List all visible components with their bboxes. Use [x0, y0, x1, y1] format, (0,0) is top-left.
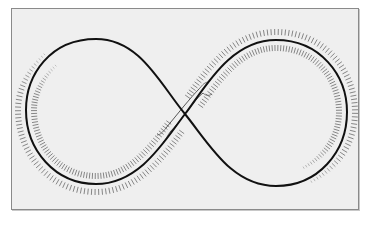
hatch-tick: [334, 129, 340, 131]
hatch-tick: [335, 101, 341, 102]
hatch-tick: [72, 169, 74, 175]
hatch-tick: [203, 71, 208, 75]
hatch-tick: [15, 117, 21, 118]
hatch-tick: [199, 77, 204, 81]
hatch-tick: [320, 152, 323, 155]
hatch-tick: [327, 168, 330, 171]
hatch-tick: [43, 78, 46, 80]
hatch-tick: [202, 99, 207, 102]
hatch-tick: [232, 63, 236, 68]
hatch-tick: [331, 136, 336, 139]
hatch-tick: [308, 163, 310, 166]
hatch-tick: [213, 84, 218, 88]
hatch-tick: [330, 166, 333, 169]
hatch-tick: [108, 172, 109, 178]
hatch-tick: [216, 56, 220, 60]
hatch-tick: [249, 51, 252, 56]
hatch-tick: [64, 165, 67, 170]
hatch-tick: [327, 76, 332, 79]
hatch-tick: [223, 72, 227, 76]
hatch-tick: [128, 181, 131, 186]
hatch-tick: [314, 40, 317, 45]
hatch-tick: [209, 89, 214, 93]
hatch-tick: [89, 173, 90, 179]
hatch-tick: [342, 149, 347, 152]
hatch-tick: [56, 179, 59, 184]
hatch-tick: [24, 78, 28, 80]
hatch-tick: [224, 49, 228, 54]
hatch-tick: [236, 41, 239, 46]
hatch-tick: [335, 121, 341, 122]
hatch-tick: [332, 87, 338, 89]
hatch-tick: [326, 74, 331, 77]
hatch-tick: [43, 147, 48, 150]
hatch-tick: [103, 173, 104, 179]
hatch-tick: [325, 48, 329, 53]
hatch-tick: [114, 170, 116, 176]
hatch-tick: [33, 124, 39, 125]
hatch-tick: [242, 37, 245, 42]
hatch-tick: [41, 145, 46, 148]
hatch-tick: [55, 65, 56, 66]
hatch-tick: [16, 121, 22, 122]
hatch-tick: [334, 161, 338, 164]
hatch-tick: [57, 161, 61, 166]
hatch-tick: [249, 34, 251, 40]
hatch-tick: [330, 81, 335, 84]
hatch-tick: [121, 167, 124, 172]
hatch-tick: [351, 127, 357, 128]
hatch-tick: [50, 155, 54, 159]
hatch-tick: [286, 46, 287, 52]
hatch-tick: [137, 176, 140, 181]
hatch-tick: [44, 171, 48, 176]
hatch-tick: [309, 55, 312, 60]
hatch-tick: [155, 161, 159, 165]
hatch-tick: [204, 96, 209, 99]
hatch-tick: [22, 81, 27, 83]
hatch-tick: [221, 74, 225, 78]
hatch-tick: [304, 52, 307, 57]
hatch-tick: [29, 156, 34, 159]
hatch-tick: [351, 124, 357, 125]
hatch-tick: [18, 92, 24, 94]
hatch-tick: [332, 163, 335, 166]
hatch-tick: [26, 150, 31, 153]
hatch-tick: [70, 185, 72, 191]
hatch-tick: [37, 137, 43, 139]
hatch-tick: [145, 170, 149, 175]
hatch-tick: [143, 149, 147, 153]
hatch-tick: [214, 59, 218, 63]
hatch-tick: [314, 179, 315, 181]
hatch-tick: [31, 116, 37, 117]
hatch-tick: [84, 188, 85, 194]
hatch-tick: [150, 165, 154, 169]
hatch-tick: [35, 91, 40, 93]
hatch-tick: [152, 163, 156, 167]
hatch-tick: [263, 46, 264, 52]
hatch-tick: [345, 78, 351, 80]
hatch-tick: [337, 62, 342, 66]
hatch-tick: [18, 131, 24, 132]
hatch-tick: [159, 156, 163, 160]
hatch-tick: [328, 141, 333, 144]
hatch-tick: [313, 58, 317, 63]
hatch-tick: [17, 96, 23, 97]
hatch-tick: [44, 149, 49, 153]
hatch-tick: [62, 164, 65, 169]
hatch-tick: [16, 99, 22, 100]
hatch-tick: [168, 146, 173, 150]
hatch-tick: [322, 150, 326, 153]
hatch-tick: [256, 32, 258, 38]
hatch-tick: [352, 120, 358, 121]
hatch-tick: [67, 167, 70, 172]
hatch-tick: [242, 56, 245, 61]
hatch-tick: [191, 87, 196, 90]
hatch-tick: [339, 65, 344, 68]
hatch-tick: [109, 188, 110, 194]
hatch-tick: [123, 165, 126, 170]
hatch-tick: [319, 175, 321, 178]
hatch-tick: [122, 184, 124, 190]
hatch-tick: [347, 140, 353, 142]
hatch-tick: [332, 134, 338, 136]
hatch-tick: [77, 187, 78, 193]
